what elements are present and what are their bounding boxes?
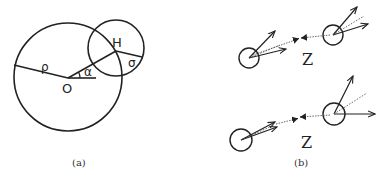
arrow-icon bbox=[249, 31, 275, 58]
label-sigma: σ bbox=[128, 56, 136, 70]
label-z-top: Z bbox=[302, 50, 313, 69]
panel-a: O H ρ α σ (a) bbox=[14, 20, 144, 168]
arrow-icon bbox=[241, 127, 277, 140]
big-circle bbox=[14, 23, 122, 131]
o-to-h-line bbox=[68, 51, 116, 78]
angle-arc bbox=[79, 72, 81, 78]
panel-b-bottom: Z (b) bbox=[230, 76, 375, 168]
caption-b: (b) bbox=[294, 157, 308, 168]
label-o: O bbox=[62, 81, 72, 96]
label-alpha: α bbox=[84, 65, 92, 79]
figure: O H ρ α σ (a) Z bbox=[0, 0, 381, 179]
label-rho: ρ bbox=[41, 60, 49, 74]
caption-a: (a) bbox=[72, 157, 86, 168]
panel-b-top: Z bbox=[239, 7, 368, 69]
label-h: H bbox=[112, 35, 122, 50]
label-z-bottom: Z bbox=[301, 133, 312, 152]
